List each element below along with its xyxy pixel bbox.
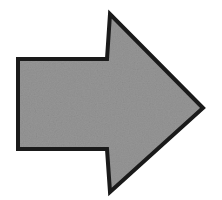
image-canvas: [0, 0, 222, 200]
arrow-graphic: [0, 0, 222, 200]
